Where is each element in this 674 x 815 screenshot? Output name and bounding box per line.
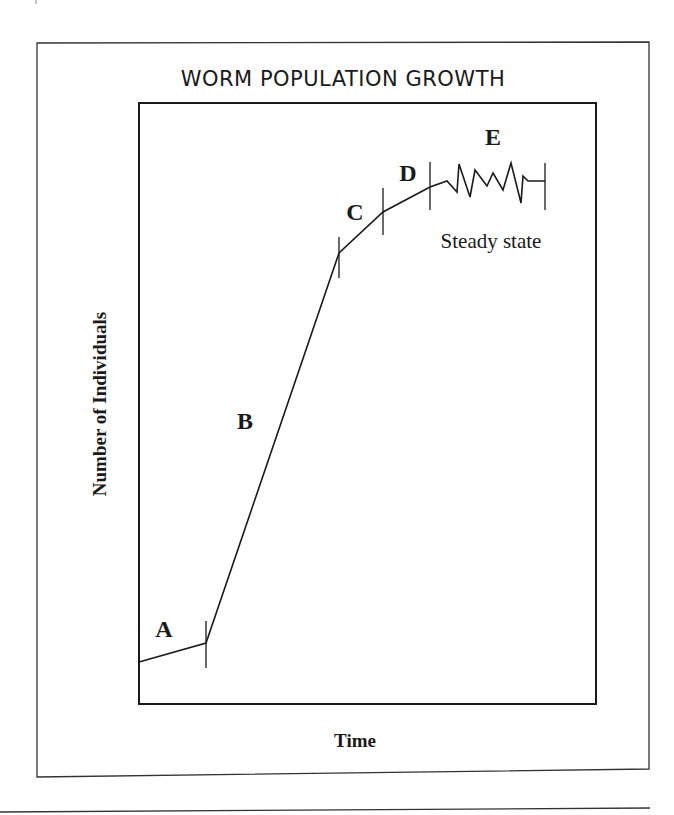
- steady-state-annotation: Steady state: [441, 229, 542, 253]
- x-axis-label: Time: [334, 730, 376, 751]
- segment-label-d: D: [399, 160, 416, 186]
- outer-frame: [37, 42, 649, 777]
- segment-label-b: B: [237, 408, 253, 434]
- worm-population-figure: WORM POPULATION GROWTH Number of Individ…: [0, 0, 674, 815]
- chart-title: WORM POPULATION GROWTH: [181, 67, 506, 91]
- y-axis-label: Number of Individuals: [89, 312, 110, 496]
- segment-label-c: C: [346, 199, 363, 225]
- plot-area-frame: [139, 103, 596, 704]
- segment-label-e: E: [485, 124, 501, 150]
- segment-label-a: A: [155, 616, 173, 642]
- page-bottom-rule: [0, 808, 650, 812]
